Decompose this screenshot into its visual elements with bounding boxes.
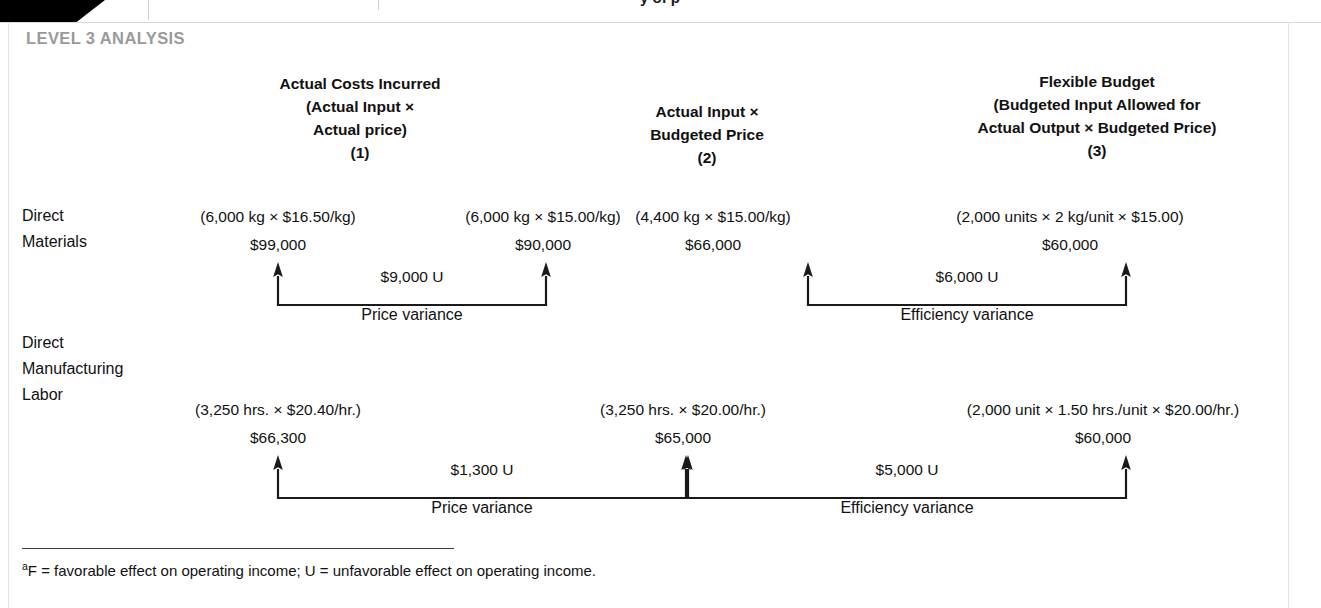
row-label-direct-materials: Direct Materials [22,203,87,255]
variance-bracket-dm-efficiency: $6,000 U Efficiency variance [802,262,1132,308]
clipped-header-text: y of p [640,0,680,6]
column-header-1-line-3: Actual price) [150,118,570,141]
column-header-3-line-1: Flexible Budget [872,70,1321,93]
page-title: LEVEL 3 ANALYSIS [26,29,185,48]
cell-dm-flexible-budget: (2,000 units × 2 kg/unit × $15.00) $60,0… [930,203,1210,259]
row-label-dl-line-3: Labor [22,382,123,408]
cell-dm-actual-actual: (6,000 kg × $16.50/kg) $99,000 [178,203,378,259]
cell-dl-1-expression: (3,250 hrs. × $20.40/hr.) [168,396,388,424]
row-label-dl-line-2: Manufacturing [22,356,123,382]
column-header-2-number: (2) [552,146,862,169]
column-header-2-line-1: Actual Input × [552,100,862,123]
variance-bracket-dl-efficiency: $5,000 U Efficiency variance [682,455,1132,501]
column-header-1: Actual Costs Incurred (Actual Input × Ac… [150,72,570,164]
column-header-3-number: (3) [872,139,1321,162]
variance-amount-dl-efficiency: $5,000 U [682,461,1132,479]
column-header-3-line-2: (Budgeted Input Allowed for [872,93,1321,116]
column-header-2-line-2: Budgeted Price [552,123,862,146]
cell-dl-1-amount: $66,300 [168,424,388,452]
cell-dm-1-amount: $99,000 [178,231,378,259]
variance-bracket-dl-price: $1,300 U Price variance [272,455,692,501]
cell-dl-3-amount: $60,000 [908,424,1298,452]
left-border-rule [8,22,9,608]
variance-name-dm-price: Price variance [272,306,552,324]
variance-bracket-dm-price: $9,000 U Price variance [272,262,552,308]
cell-dl-2-amount: $65,000 [568,424,798,452]
column-header-3-line-3: Actual Output × Budgeted Price) [872,116,1321,139]
page-tab-black [0,0,105,22]
footnote-text: F = favorable effect on operating income… [28,562,596,579]
column-header-3: Flexible Budget (Budgeted Input Allowed … [872,70,1321,162]
cell-dm-3-expression: (4,400 kg × $15.00/kg) [608,203,818,231]
cell-dl-actual-input-budgeted-price: (3,250 hrs. × $20.00/hr.) $65,000 [568,396,798,452]
footnote-divider [22,548,454,549]
variance-name-dm-efficiency: Efficiency variance [802,306,1132,324]
top-bar: y of p [0,0,1321,23]
cell-dm-4-expression: (2,000 units × 2 kg/unit × $15.00) [930,203,1210,231]
row-label-dm-line-1: Direct [22,203,87,229]
cell-dl-2-expression: (3,250 hrs. × $20.00/hr.) [568,396,798,424]
variance-name-dl-efficiency: Efficiency variance [682,499,1132,517]
row-label-dl-line-1: Direct [22,330,123,356]
variance-amount-dm-price: $9,000 U [272,268,552,286]
column-header-1-number: (1) [150,141,570,164]
column-header-2: Actual Input × Budgeted Price (2) [552,100,862,169]
row-label-direct-labor: Direct Manufacturing Labor [22,330,123,408]
cell-dl-flexible-budget: (2,000 unit × 1.50 hrs./unit × $20.00/hr… [908,396,1298,452]
cell-dl-actual-actual: (3,250 hrs. × $20.40/hr.) $66,300 [168,396,388,452]
column-header-1-line-2: (Actual Input × [150,95,570,118]
cell-dm-actual-input-budgeted-price: (4,400 kg × $15.00/kg) $66,000 [608,203,818,259]
column-header-1-line-1: Actual Costs Incurred [150,72,570,95]
footnote: aF = favorable effect on operating incom… [22,560,596,579]
variance-name-dl-price: Price variance [272,499,692,517]
variance-amount-dm-efficiency: $6,000 U [802,268,1132,286]
tab-divider [148,0,149,20]
tab-divider-secondary [378,0,379,10]
row-label-dm-line-2: Materials [22,229,87,255]
cell-dm-3-amount: $66,000 [608,231,818,259]
cell-dl-3-expression: (2,000 unit × 1.50 hrs./unit × $20.00/hr… [908,396,1298,424]
cell-dm-1-expression: (6,000 kg × $16.50/kg) [178,203,378,231]
variance-amount-dl-price: $1,300 U [272,461,692,479]
variance-analysis-exhibit: y of p LEVEL 3 ANALYSIS Actual Costs Inc… [0,0,1321,608]
cell-dm-4-amount: $60,000 [930,231,1210,259]
